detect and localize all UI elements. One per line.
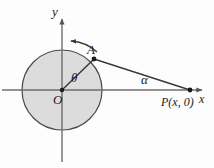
point-p-marker [188, 88, 193, 93]
figure-container: y x O A θ α P(x, 0) [0, 0, 214, 168]
y-axis-label: y [52, 5, 58, 18]
geometry-diagram [0, 0, 214, 168]
origin-label: O [53, 93, 62, 106]
angle-theta-label: θ [71, 71, 77, 84]
x-axis-label: x [199, 93, 204, 105]
point-a-marker [92, 57, 97, 62]
point-p-label: P(x, 0) [161, 96, 194, 108]
angle-alpha-label: α [141, 73, 148, 86]
point-a-label: A [87, 43, 95, 56]
